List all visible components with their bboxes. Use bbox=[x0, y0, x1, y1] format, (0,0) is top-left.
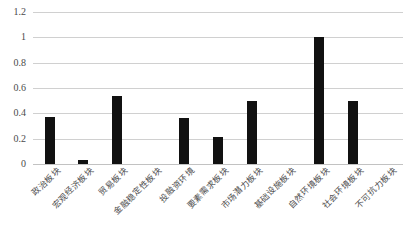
bar-slot bbox=[268, 12, 302, 164]
bar bbox=[179, 118, 189, 164]
y-axis-tick-label: 0.4 bbox=[14, 108, 27, 118]
y-axis-tick-label: 0.2 bbox=[14, 134, 27, 144]
y-axis-tick-label: 0.8 bbox=[14, 58, 27, 68]
bar-slot bbox=[369, 12, 403, 164]
bar-slot bbox=[33, 12, 67, 164]
x-axis-labels: 政治板块宏观经济板块贸易板块金融稳定性板块投融资环境要素需求板块市场潜力板块基础… bbox=[33, 166, 403, 248]
bar bbox=[78, 160, 88, 164]
bar-series bbox=[33, 12, 403, 164]
bar-slot bbox=[67, 12, 101, 164]
bar bbox=[45, 117, 55, 165]
bar-slot bbox=[235, 12, 269, 164]
y-axis-tick-label: 0.6 bbox=[14, 83, 27, 93]
bar-chart: 00.20.40.60.811.2 政治板块宏观经济板块贸易板块金融稳定性板块投… bbox=[0, 0, 406, 248]
bar-slot bbox=[134, 12, 168, 164]
y-axis-tick-label: 1.2 bbox=[14, 7, 27, 17]
bar bbox=[348, 101, 358, 164]
x-axis-tick-label: 贸易板块 bbox=[98, 166, 130, 198]
y-axis: 00.20.40.60.811.2 bbox=[0, 12, 30, 164]
bar-slot bbox=[336, 12, 370, 164]
x-axis-tick-label: 政治板块 bbox=[30, 166, 62, 198]
bar-slot bbox=[100, 12, 134, 164]
y-axis-tick-label: 0 bbox=[21, 159, 26, 169]
bar bbox=[314, 37, 324, 164]
bar bbox=[112, 96, 122, 164]
bar bbox=[213, 137, 223, 164]
bar-slot bbox=[302, 12, 336, 164]
plot-area bbox=[33, 12, 403, 164]
y-axis-tick-label: 1 bbox=[21, 32, 26, 42]
bar-slot bbox=[168, 12, 202, 164]
bar-slot bbox=[201, 12, 235, 164]
bar bbox=[247, 101, 257, 164]
